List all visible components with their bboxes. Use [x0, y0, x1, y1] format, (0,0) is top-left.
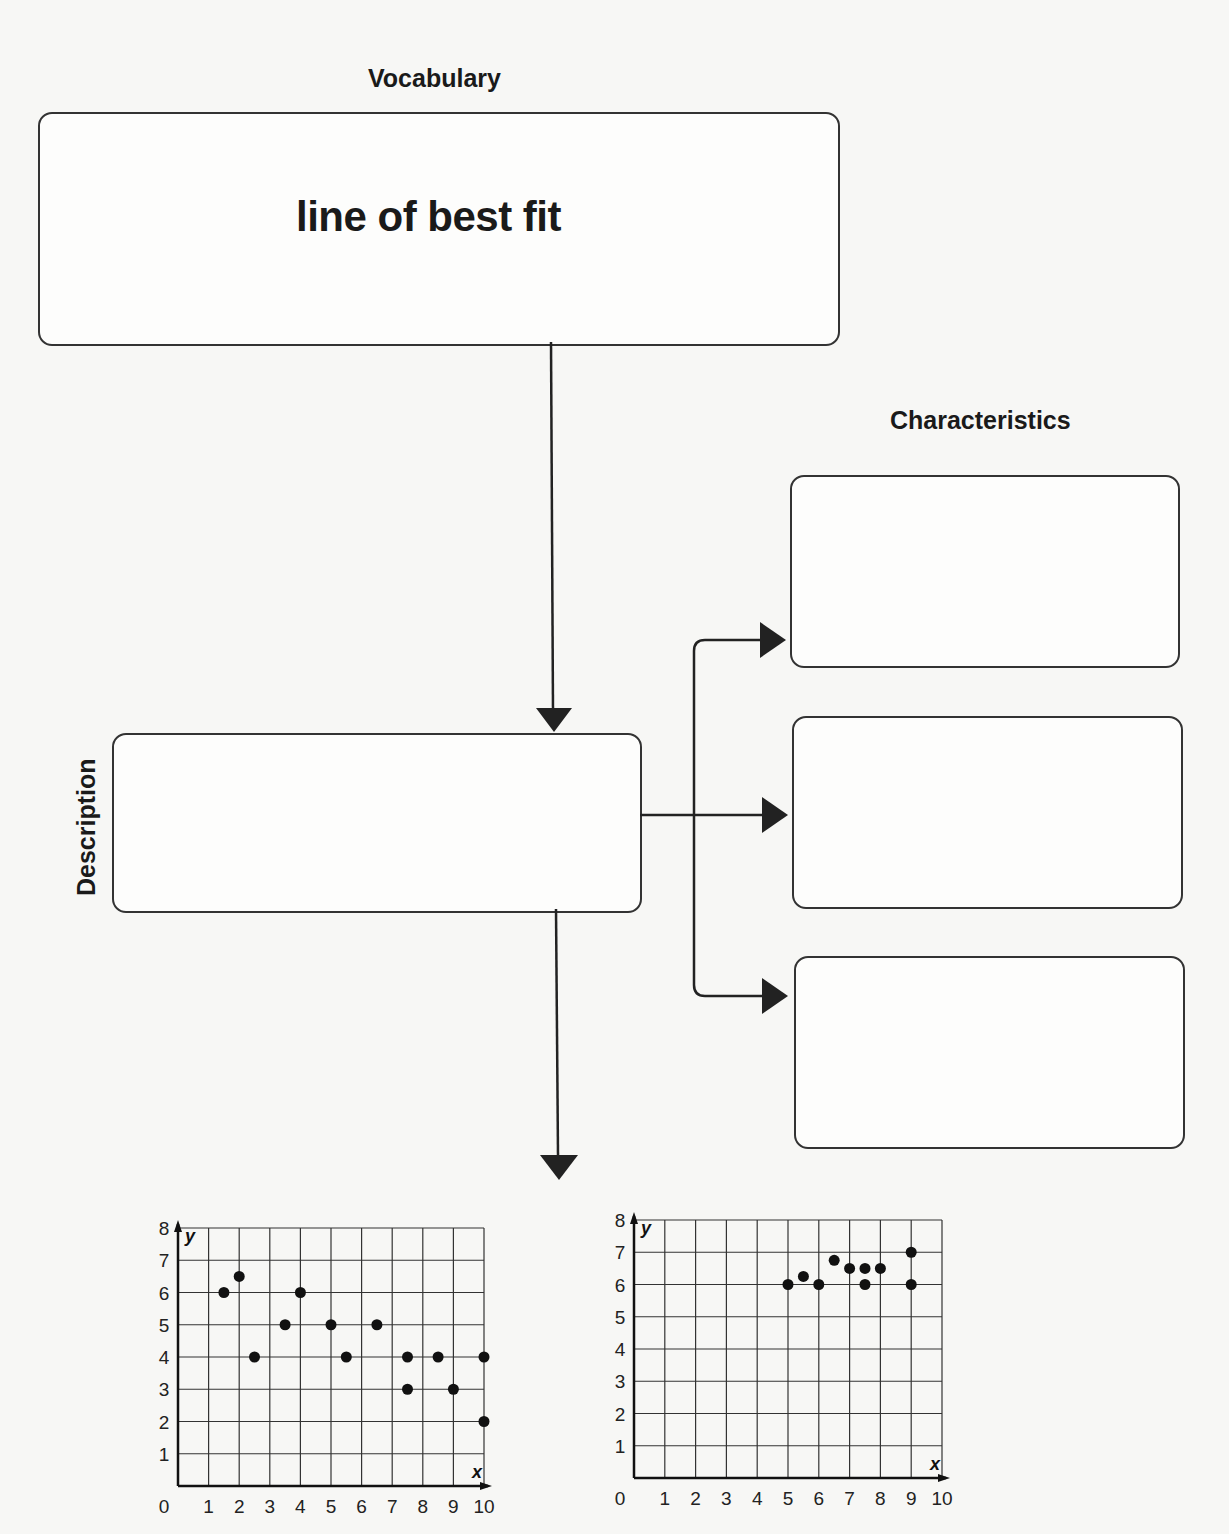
svg-text:4: 4: [615, 1339, 626, 1360]
svg-text:1: 1: [203, 1496, 214, 1517]
svg-text:x: x: [929, 1454, 941, 1474]
arrow-right-icon: [760, 622, 786, 658]
svg-text:4: 4: [159, 1347, 170, 1368]
svg-text:9: 9: [906, 1488, 917, 1509]
svg-text:2: 2: [615, 1404, 626, 1425]
svg-text:3: 3: [615, 1371, 626, 1392]
arrow-down-icon: [540, 1155, 578, 1180]
svg-text:8: 8: [159, 1218, 170, 1239]
svg-text:0: 0: [615, 1488, 626, 1509]
svg-text:5: 5: [615, 1307, 626, 1328]
svg-text:3: 3: [159, 1379, 170, 1400]
arrow-right-icon: [762, 797, 788, 833]
svg-text:2: 2: [234, 1496, 245, 1517]
svg-text:7: 7: [159, 1250, 170, 1271]
svg-text:10: 10: [473, 1496, 494, 1517]
svg-text:y: y: [184, 1226, 196, 1246]
svg-text:4: 4: [752, 1488, 763, 1509]
svg-text:0: 0: [159, 1496, 170, 1517]
svg-text:4: 4: [295, 1496, 306, 1517]
arrow-right-icon: [762, 978, 788, 1014]
arrow-down-icon: [536, 708, 572, 732]
svg-text:7: 7: [615, 1242, 626, 1263]
svg-text:7: 7: [844, 1488, 855, 1509]
svg-text:5: 5: [159, 1315, 170, 1336]
svg-text:1: 1: [660, 1488, 671, 1509]
scatter-plot-1: 01234567891012345678xy: [140, 1210, 520, 1534]
svg-text:3: 3: [265, 1496, 276, 1517]
svg-text:y: y: [640, 1218, 652, 1238]
svg-text:6: 6: [814, 1488, 825, 1509]
svg-text:10: 10: [931, 1488, 952, 1509]
svg-text:7: 7: [387, 1496, 398, 1517]
svg-text:6: 6: [159, 1283, 170, 1304]
svg-text:2: 2: [159, 1412, 170, 1433]
svg-text:8: 8: [875, 1488, 886, 1509]
svg-text:8: 8: [615, 1210, 626, 1231]
svg-text:5: 5: [326, 1496, 337, 1517]
svg-text:1: 1: [159, 1444, 170, 1465]
svg-text:8: 8: [418, 1496, 429, 1517]
svg-text:2: 2: [690, 1488, 701, 1509]
svg-text:6: 6: [615, 1275, 626, 1296]
svg-text:1: 1: [615, 1436, 626, 1457]
svg-text:x: x: [471, 1462, 483, 1482]
svg-text:3: 3: [721, 1488, 732, 1509]
scatter-plot-2: 01234567891012345678xy: [600, 1205, 980, 1525]
svg-text:5: 5: [783, 1488, 794, 1509]
svg-text:9: 9: [448, 1496, 459, 1517]
svg-text:6: 6: [356, 1496, 367, 1517]
